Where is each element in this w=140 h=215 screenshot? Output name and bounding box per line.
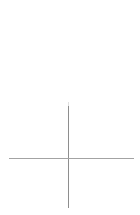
- plot-background: [0, 0, 140, 215]
- axes-cross-figure: [0, 0, 140, 215]
- figure-canvas: [0, 0, 140, 215]
